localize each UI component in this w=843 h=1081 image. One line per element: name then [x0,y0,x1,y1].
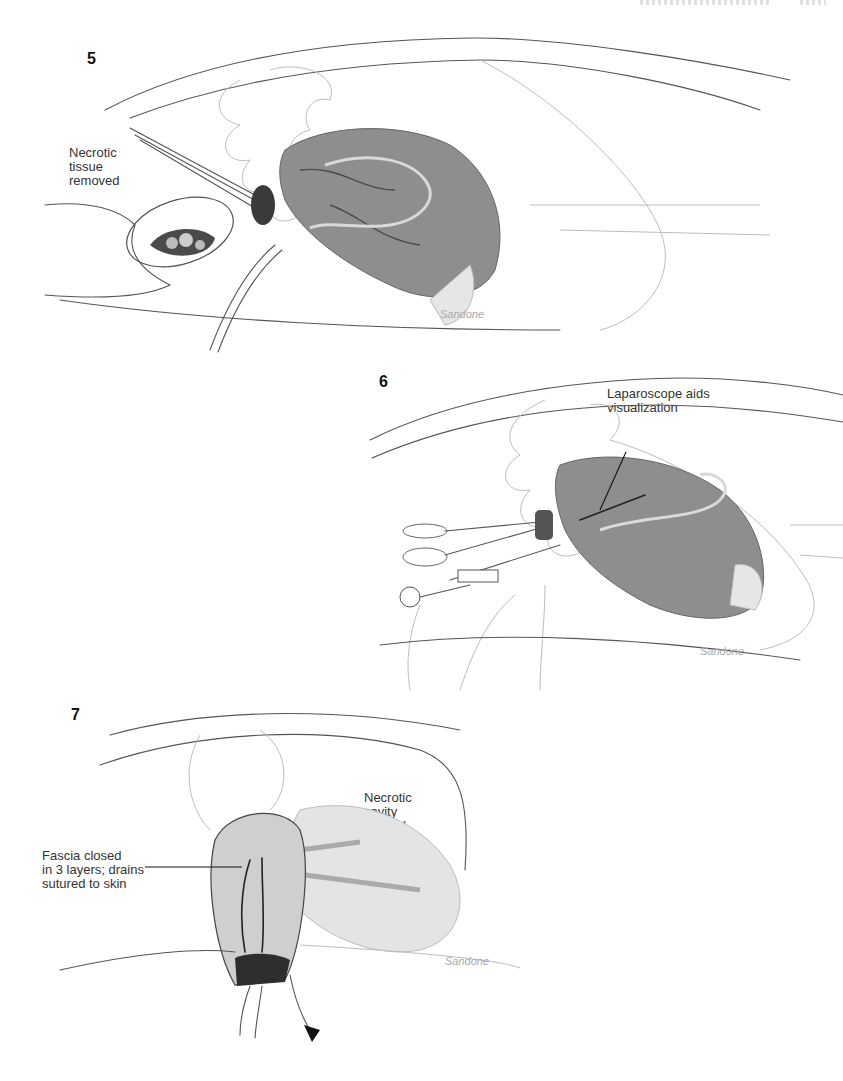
arrow-icon [304,1025,320,1042]
figure-6: 6 Laparoscope aids visualization Sandone [0,360,843,690]
illustration-closure-and-drainage: Sandone [0,690,843,1081]
artist-signature: Sandone [440,308,484,320]
artist-signature: Sandone [445,955,489,967]
artist-signature: Sandone [700,645,744,657]
figure-7: 7 Necrotic cavity flushed Fascia closed … [0,690,843,1081]
illustration-laparoscopic-visualization: Sandone [0,360,843,690]
necrotic-cavity-flushed [289,806,460,952]
figure-5: 5 Necrotic tissue removed Sandone [0,0,843,360]
illustration-necrosectomy-removal: Sandone [0,0,843,360]
